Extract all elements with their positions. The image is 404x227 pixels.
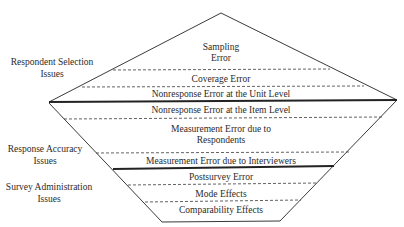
layer-measurement-respondents: Measurement Error due to Respondents bbox=[121, 124, 321, 146]
divider-postsurvey-mode bbox=[128, 183, 318, 185]
layer-postsurvey-error: Postsurvey Error bbox=[121, 172, 321, 183]
layer-measurement-interviewers: Measurement Error due to Interviewers bbox=[121, 156, 321, 167]
layer-coverage-error: Coverage Error bbox=[121, 74, 321, 85]
side-label-respondent-selection: Respondent Selection Issues bbox=[2, 56, 102, 80]
layer-nonresponse-item: Nonresponse Error at the Item Level bbox=[121, 105, 321, 116]
layer-sampling-error: Sampling Error bbox=[171, 42, 271, 64]
side-label-survey-administration: Survey Administration Issues bbox=[0, 181, 99, 205]
divider-item-respondents bbox=[64, 117, 382, 119]
divider-mode-comparability bbox=[145, 200, 301, 202]
layer-mode-effects: Mode Effects bbox=[121, 189, 321, 200]
divider-coverage-unit bbox=[82, 86, 364, 87]
layer-comparability-effects: Comparability Effects bbox=[121, 205, 321, 216]
divider-selection-accuracy bbox=[49, 100, 397, 102]
bottom-edge bbox=[162, 221, 280, 222]
layer-nonresponse-unit: Nonresponse Error at the Unit Level bbox=[121, 89, 321, 100]
divider-sampling-coverage bbox=[113, 69, 330, 70]
divider-respondents-interviewers bbox=[96, 152, 349, 153]
side-label-response-accuracy: Response Accuracy Issues bbox=[0, 143, 95, 167]
